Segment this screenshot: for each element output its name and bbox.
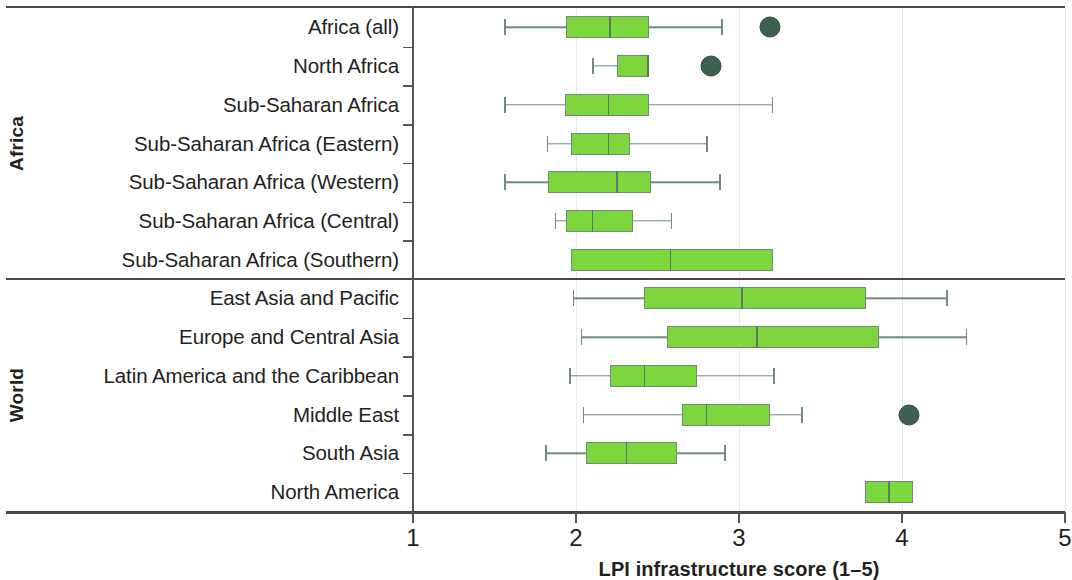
x-axis-tick-label: 5 — [1058, 524, 1071, 552]
box — [571, 133, 630, 155]
box-plot-row — [413, 240, 1065, 279]
frame-middle-rule — [6, 278, 1065, 280]
box-plot-row — [413, 47, 1065, 86]
whisker-high — [630, 143, 708, 144]
median-line — [592, 210, 594, 232]
whisker-cap-low — [545, 445, 547, 461]
whisker-cap-low — [569, 368, 571, 384]
x-axis-tick — [901, 512, 903, 523]
whisker-cap-high — [946, 290, 948, 306]
box — [548, 171, 651, 193]
whisker-cap-high — [801, 407, 803, 423]
median-line — [626, 442, 628, 464]
category-label: Africa (all) — [0, 8, 410, 47]
whisker-cap-high — [772, 97, 774, 113]
median-line — [756, 326, 758, 348]
category-label: Sub-Saharan Africa (Eastern) — [0, 124, 410, 163]
box — [586, 442, 677, 464]
whisker-cap-low — [504, 97, 506, 113]
x-axis-tick — [412, 512, 414, 523]
category-label: Sub-Saharan Africa (Southern) — [0, 240, 410, 279]
y-axis-tick — [403, 163, 412, 165]
plot-area — [413, 8, 1065, 512]
whisker-high — [649, 27, 722, 28]
y-axis-tick — [403, 202, 412, 204]
box-plot-row — [413, 356, 1065, 395]
x-axis-tick-label: 1 — [406, 524, 419, 552]
category-label: Sub-Saharan Africa (Western) — [0, 163, 410, 202]
x-axis-tick — [1064, 512, 1066, 523]
median-line — [706, 404, 708, 426]
y-axis-tick — [403, 434, 412, 436]
box-plot-row — [413, 279, 1065, 318]
whisker-high — [651, 182, 721, 183]
median-line — [644, 365, 646, 387]
x-axis-title: LPI infrastructure score (1–5) — [413, 558, 1065, 580]
x-axis-tick-label: 3 — [732, 524, 745, 552]
whisker-high — [770, 414, 803, 415]
whisker-cap-high — [773, 368, 775, 384]
outlier-point — [759, 17, 780, 38]
outlier-point — [701, 56, 722, 77]
box — [682, 404, 770, 426]
whisker-low — [573, 298, 645, 299]
y-axis-tick — [403, 124, 412, 126]
box-plot-row — [413, 395, 1065, 434]
whisker-cap-low — [504, 19, 506, 35]
x-axis-tick-label: 2 — [569, 524, 582, 552]
median-line — [647, 55, 649, 77]
y-axis-tick — [403, 473, 412, 475]
whisker-low — [583, 414, 682, 415]
whisker-cap-low — [583, 407, 585, 423]
x-axis-tick — [738, 512, 740, 523]
whisker-cap-high — [724, 445, 726, 461]
whisker-high — [866, 298, 948, 299]
whisker-low — [504, 27, 566, 28]
whisker-high — [697, 375, 775, 376]
x-axis-tick-label: 4 — [895, 524, 908, 552]
whisker-low — [592, 65, 616, 66]
box — [667, 326, 879, 348]
median-line — [616, 171, 618, 193]
x-axis-tick — [575, 512, 577, 523]
category-label-column: Africa (all)North AfricaSub-Saharan Afri… — [0, 8, 410, 511]
whisker-low — [547, 143, 571, 144]
whisker-cap-low — [555, 213, 557, 229]
median-line — [608, 94, 610, 116]
median-line — [608, 133, 610, 155]
box-plot-row — [413, 318, 1065, 357]
box — [610, 365, 696, 387]
box-plot-row — [413, 8, 1065, 47]
category-label: Sub-Saharan Africa (Central) — [0, 202, 410, 241]
whisker-low — [504, 182, 548, 183]
whisker-cap-low — [581, 329, 583, 345]
whisker-cap-low — [592, 58, 594, 74]
whisker-cap-high — [671, 213, 673, 229]
whisker-cap-low — [573, 290, 575, 306]
category-label: North America — [0, 473, 410, 512]
whisker-low — [555, 220, 566, 221]
category-label: East Asia and Pacific — [0, 279, 410, 318]
y-axis-tick — [403, 318, 412, 320]
box — [566, 16, 649, 38]
category-label: Sub-Saharan Africa — [0, 85, 410, 124]
frame-bottom-rule — [6, 511, 1065, 513]
y-axis-tick — [403, 395, 412, 397]
whisker-cap-low — [547, 136, 549, 152]
box-plot-row — [413, 163, 1065, 202]
y-axis-tick — [403, 85, 412, 87]
box-plot-row — [413, 202, 1065, 241]
whisker-high — [633, 220, 672, 221]
frame-top-rule — [6, 6, 1065, 8]
category-label: Middle East — [0, 395, 410, 434]
box-plot-row — [413, 85, 1065, 124]
whisker-low — [581, 336, 667, 337]
outlier-point — [898, 404, 919, 425]
box-plot-row — [413, 473, 1065, 512]
category-label: Latin America and the Caribbean — [0, 356, 410, 395]
y-axis-tick — [403, 240, 412, 242]
category-label: South Asia — [0, 434, 410, 473]
whisker-cap-high — [966, 329, 968, 345]
median-line — [609, 16, 611, 38]
